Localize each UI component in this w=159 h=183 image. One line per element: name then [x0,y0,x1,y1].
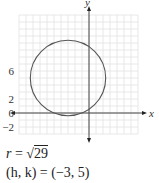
grid [19,15,138,134]
center-equation: (h, k) = (−3, 5) [6,165,89,181]
radius-equation: r = √29 [6,146,48,162]
y-tick-label: 6 [9,65,15,77]
x-axis-arrow-right [142,111,147,115]
y-tick-label: 0 [9,107,15,119]
sqrt-symbol: √ [26,146,34,161]
y-axis-arrow-down [87,138,91,143]
radius-prefix: r = [6,146,26,161]
y-tick-label: 2 [9,93,15,105]
circle-graph: xy −6−2026620−2 [0,0,159,145]
radius-value: 29 [34,145,48,161]
y-axis-label: y [84,0,90,8]
x-axis-label: x [148,107,154,119]
y-tick-label: −2 [2,121,14,133]
